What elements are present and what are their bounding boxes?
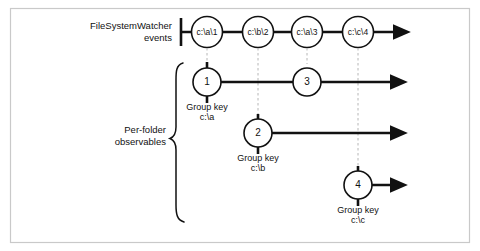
source-label-line1: FileSystemWatcher xyxy=(90,20,172,31)
observable-row-group-a: 1 3 Group key c:\a xyxy=(186,62,391,122)
observable-row-group-b: 2 Group key c:\b xyxy=(237,114,391,173)
brace-label-line1: Per-folder xyxy=(124,124,166,135)
event-node: c:\a\3 xyxy=(292,17,323,48)
event-label: c:\b\2 xyxy=(248,27,269,37)
event-label: c:\c\4 xyxy=(348,27,369,37)
group-key-caption: Group key xyxy=(186,102,228,112)
curly-brace xyxy=(170,63,184,222)
event-label: c:\a\3 xyxy=(297,27,318,37)
event-node: c:\a\1 xyxy=(192,17,223,48)
grouped-node: 1 xyxy=(193,68,221,96)
grouped-node: 2 xyxy=(244,119,272,147)
grouped-node: 3 xyxy=(293,68,321,96)
grouped-label: 4 xyxy=(355,179,361,190)
source-timeline: c:\a\1 c:\b\2 c:\a\3 c:\c\4 xyxy=(181,17,394,48)
grouped-label: 1 xyxy=(204,76,210,87)
event-node: c:\b\2 xyxy=(243,17,274,48)
brace-label-line2: observables xyxy=(115,136,166,147)
source-label-line2: events xyxy=(144,32,172,43)
source-row-label: FileSystemWatcher events xyxy=(90,20,172,43)
figure-border xyxy=(11,9,470,243)
group-key-caption: Group key xyxy=(237,153,279,163)
group-key-value: c:\c xyxy=(351,215,366,225)
grouped-node: 4 xyxy=(344,171,372,199)
diagram-canvas: c:\a\1 c:\b\2 c:\a\3 c:\c\4 xyxy=(0,0,480,251)
group-key-value: c:\b xyxy=(251,163,266,173)
figure-container: c:\a\1 c:\b\2 c:\a\3 c:\c\4 xyxy=(0,0,480,251)
event-node: c:\c\4 xyxy=(343,17,374,48)
group-key-caption: Group key xyxy=(337,205,379,215)
event-label: c:\a\1 xyxy=(197,27,218,37)
group-key-value: c:\a xyxy=(200,112,215,122)
grouped-label: 2 xyxy=(255,127,261,138)
brace-label: Per-folder observables xyxy=(115,124,166,147)
grouped-label: 3 xyxy=(304,76,310,87)
projection-lines xyxy=(207,48,358,166)
observable-row-group-c: 4 Group key c:\c xyxy=(337,166,391,225)
